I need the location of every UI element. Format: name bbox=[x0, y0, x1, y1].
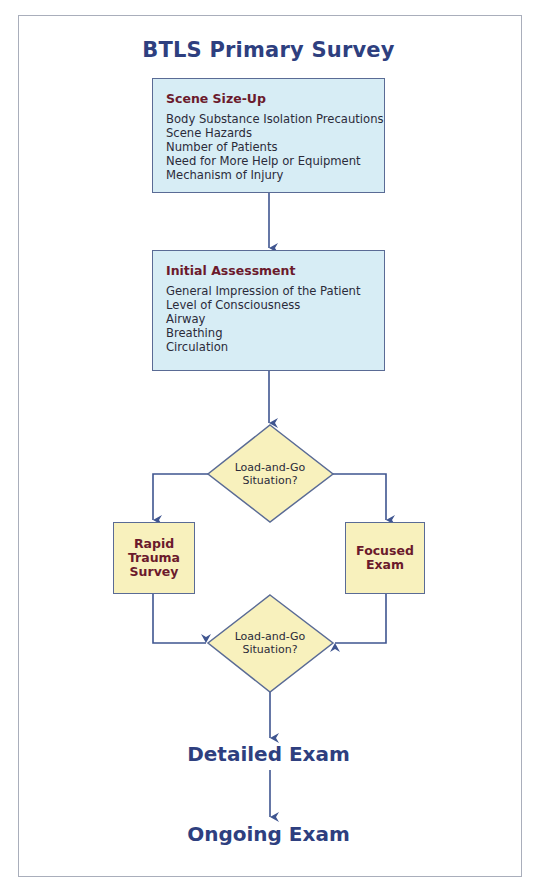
assessment-item: Breathing bbox=[166, 326, 374, 340]
assessment-item: Circulation bbox=[166, 340, 374, 354]
ongoing-exam-label: Ongoing Exam bbox=[0, 822, 537, 846]
assessment-item: Level of Consciousness bbox=[166, 298, 374, 312]
assessment-item: General Impression of the Patient bbox=[166, 284, 374, 298]
rapid-trauma-line2: Trauma bbox=[128, 551, 180, 565]
focused-exam-line1: Focused bbox=[356, 544, 414, 558]
arrow-focused-to-decision2 bbox=[335, 594, 386, 643]
decision-2-line1: Load-and-Go bbox=[210, 630, 330, 643]
initial-assessment-heading: Initial Assessment bbox=[166, 263, 374, 278]
decision-2-label: Load-and-Go Situation? bbox=[210, 630, 330, 656]
decision-2-line2: Situation? bbox=[210, 643, 330, 656]
decision-1-label: Load-and-Go Situation? bbox=[210, 461, 330, 487]
scene-item: Body Substance Isolation Precautions bbox=[166, 112, 374, 126]
arrow-decision1-to-rapid bbox=[153, 474, 208, 520]
focused-exam-line2: Exam bbox=[356, 558, 414, 572]
focused-exam-box: Focused Exam bbox=[345, 522, 425, 594]
scene-item: Scene Hazards bbox=[166, 126, 374, 140]
initial-assessment-box: Initial Assessment General Impression of… bbox=[152, 250, 385, 371]
scene-item: Need for More Help or Equipment bbox=[166, 154, 374, 168]
arrow-decision1-to-focused bbox=[333, 474, 386, 520]
rapid-trauma-line3: Survey bbox=[128, 565, 180, 579]
rapid-trauma-survey-box: Rapid Trauma Survey bbox=[113, 522, 195, 594]
scene-size-up-box: Scene Size-Up Body Substance Isolation P… bbox=[152, 78, 385, 193]
arrow-rapid-to-decision2 bbox=[153, 594, 206, 643]
detailed-exam-label: Detailed Exam bbox=[0, 742, 537, 766]
scene-item: Mechanism of Injury bbox=[166, 168, 374, 182]
scene-item: Number of Patients bbox=[166, 140, 374, 154]
assessment-item: Airway bbox=[166, 312, 374, 326]
scene-size-up-heading: Scene Size-Up bbox=[166, 91, 374, 106]
decision-1-line2: Situation? bbox=[210, 474, 330, 487]
decision-1-line1: Load-and-Go bbox=[210, 461, 330, 474]
rapid-trauma-line1: Rapid bbox=[128, 537, 180, 551]
